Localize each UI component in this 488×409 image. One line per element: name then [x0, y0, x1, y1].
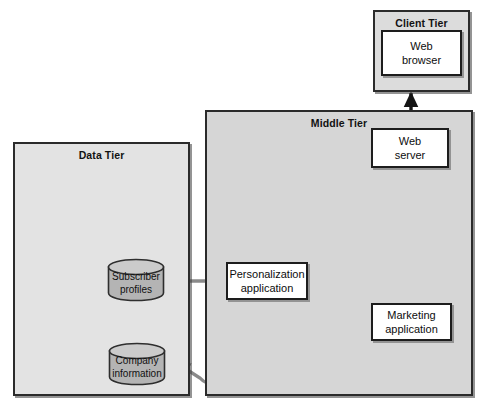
node-personalization-application[interactable]: Personalization application: [226, 262, 308, 300]
node-personalization-line1: Personalization: [229, 267, 304, 281]
node-marketing-line2: application: [385, 322, 438, 336]
node-web-server-line1: Web: [399, 134, 421, 148]
tier-data-title: Data Tier: [15, 149, 188, 161]
node-web-server-line2: server: [395, 148, 426, 162]
node-marketing-line1: Marketing: [387, 308, 435, 322]
cylinder-icon: [107, 258, 165, 302]
node-web-browser[interactable]: Web browser: [381, 30, 462, 76]
node-web-server[interactable]: Web server: [371, 128, 449, 168]
database-subscriber-profiles[interactable]: Subscriber profiles: [107, 258, 165, 302]
tier-client-title: Client Tier: [375, 17, 468, 29]
node-web-browser-line1: Web: [410, 39, 432, 53]
node-personalization-line2: application: [241, 281, 294, 295]
node-web-browser-line2: browser: [402, 53, 441, 67]
database-company-information[interactable]: Company information: [108, 342, 166, 386]
cylinder-icon: [108, 342, 166, 386]
node-marketing-application[interactable]: Marketing application: [371, 303, 452, 341]
